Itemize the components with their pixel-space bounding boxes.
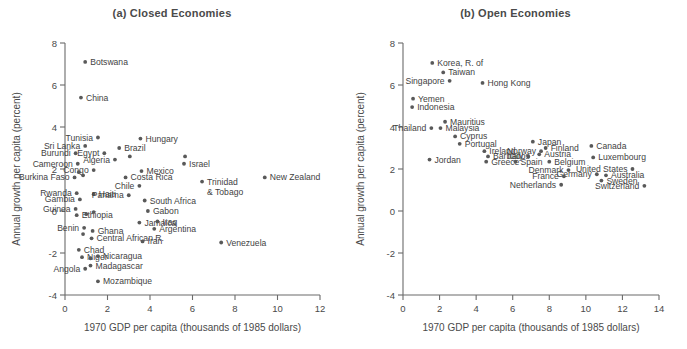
data-point-label: China — [86, 93, 109, 103]
x-axis-title: 1970 GDP per capita (thousands of 1985 d… — [422, 322, 639, 333]
data-point — [75, 191, 79, 195]
x-axis-tick-label: 8 — [547, 303, 552, 314]
data-point — [484, 160, 488, 164]
data-point — [82, 226, 86, 230]
data-point-label: New Zealand — [270, 172, 321, 182]
data-point-label: Panama — [92, 190, 124, 200]
data-point — [156, 220, 160, 224]
data-point-label: Argentina — [159, 224, 196, 234]
data-point — [139, 137, 143, 141]
data-point — [79, 96, 83, 100]
data-point — [219, 241, 223, 245]
data-point-label: Angola — [53, 264, 80, 274]
data-point — [77, 248, 81, 252]
data-point — [77, 170, 81, 174]
x-axis-tick-label: 10 — [581, 303, 592, 314]
data-point — [482, 149, 486, 153]
data-point-label: Gabon — [153, 206, 179, 216]
data-point — [75, 213, 79, 217]
y-axis-tick-label: 6 — [52, 80, 57, 91]
figure-container: (a) Closed Economies -4-2024680246810121… — [0, 0, 687, 349]
data-point — [453, 135, 457, 139]
data-point — [84, 212, 88, 216]
data-point — [263, 176, 267, 180]
y-axis-title: Annual growth per capita (percent) — [355, 92, 366, 245]
data-point — [559, 183, 563, 187]
y-axis-tick-label: 0 — [390, 206, 395, 217]
x-axis-tick-label: 4 — [147, 303, 152, 314]
data-point — [141, 240, 145, 244]
y-axis-tick-label: -4 — [49, 290, 57, 301]
data-point-label: Burkina Faso — [19, 172, 70, 182]
data-point-label: Netherlands — [510, 180, 556, 190]
data-point — [428, 158, 432, 162]
x-axis-tick-label: 6 — [190, 303, 195, 314]
data-point — [430, 61, 434, 65]
x-axis-tick-label: 8 — [232, 303, 237, 314]
data-point — [642, 184, 646, 188]
data-point — [83, 267, 87, 271]
data-point — [96, 279, 100, 283]
data-point-label: Hungary — [145, 134, 178, 144]
data-point-label: Indonesia — [417, 102, 454, 112]
data-point-label: Jordan — [435, 155, 461, 165]
data-point-label: Trinidad — [207, 177, 238, 187]
data-point-label: Burundi — [41, 148, 71, 158]
data-point — [78, 198, 82, 202]
data-point — [89, 264, 93, 268]
y-axis-tick-label: 8 — [390, 38, 395, 49]
data-point — [127, 193, 131, 197]
data-point — [74, 207, 78, 211]
data-point — [182, 162, 186, 166]
data-point — [117, 146, 121, 150]
data-point-label: Singapore — [405, 76, 444, 86]
data-point — [589, 144, 593, 148]
data-point — [486, 155, 490, 159]
data-point-label: South Africa — [150, 196, 197, 206]
data-point — [537, 152, 541, 156]
data-point-label: Botswana — [90, 57, 128, 67]
data-point-label: Brazil — [124, 143, 146, 153]
data-point — [91, 229, 95, 233]
data-point — [146, 209, 150, 213]
x-axis-title: 1970 GDP per capita (thousands of 1985 d… — [84, 322, 301, 333]
data-point — [96, 254, 100, 258]
data-point — [591, 156, 595, 160]
data-point — [411, 97, 415, 101]
data-point-label: Algeria — [83, 155, 110, 165]
data-point — [128, 155, 132, 159]
data-point — [448, 79, 452, 83]
data-point-label: Israel — [189, 159, 210, 169]
data-point-label: Benin — [57, 223, 79, 233]
x-axis-tick-label: 6 — [510, 303, 515, 314]
y-axis-tick-label: 8 — [52, 38, 57, 49]
data-point — [514, 160, 518, 164]
y-axis-tick-label: 4 — [52, 122, 57, 133]
data-point — [562, 174, 566, 178]
data-point — [124, 176, 128, 180]
data-point-label: Germany — [556, 169, 592, 179]
y-axis-tick-label: 2 — [390, 164, 395, 175]
data-point — [89, 256, 93, 260]
x-axis-tick-label: 0 — [400, 303, 405, 314]
data-point — [410, 105, 414, 109]
data-point — [183, 155, 187, 159]
data-point — [80, 255, 84, 259]
y-axis-title: Annual growth per capita (percent) — [11, 92, 22, 245]
data-point — [439, 126, 443, 130]
chart-panel-open-economies: (b) Open Economies -4-202468024681012141… — [344, 0, 687, 349]
data-point-label: Thailand — [393, 123, 426, 133]
data-point-label: Madagascar — [96, 261, 143, 271]
data-point-label: Luxembourg — [598, 152, 646, 162]
data-point — [143, 199, 147, 203]
data-point — [200, 180, 204, 184]
data-point — [152, 227, 156, 231]
x-axis-tick-label: 2 — [437, 303, 442, 314]
scatter-plot-closed-economies: -4-2024680246810121970 GDP per capita (t… — [0, 0, 344, 349]
x-axis-tick-label: 2 — [105, 303, 110, 314]
x-axis-tick-label: 14 — [654, 303, 665, 314]
data-point — [90, 236, 94, 240]
chart-panel-closed-economies: (a) Closed Economies -4-2024680246810121… — [0, 0, 344, 349]
data-point — [531, 140, 535, 144]
data-point — [547, 160, 551, 164]
